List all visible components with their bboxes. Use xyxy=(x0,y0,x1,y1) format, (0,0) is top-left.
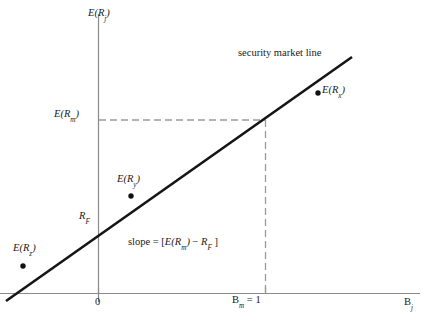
point-z-close: ) xyxy=(32,242,36,253)
data-point-y xyxy=(128,193,133,198)
x-axis-label-main: B xyxy=(404,296,411,307)
slope-term2-sub: F xyxy=(207,244,211,252)
x-tick-label-market-beta: Bm = 1 xyxy=(232,295,261,306)
market-beta-main: B xyxy=(232,294,239,305)
slope-operator: − xyxy=(190,236,201,247)
market-beta-sub: m xyxy=(239,302,244,310)
point-z-main: E(R xyxy=(13,242,29,253)
figure-canvas xyxy=(0,0,425,323)
data-point-z xyxy=(20,263,25,268)
data-point-x xyxy=(315,90,320,95)
security-market-line-label: security market line xyxy=(238,48,321,59)
x-axis-label-sub: j xyxy=(411,304,413,312)
y-axis-label-main: E(R xyxy=(88,7,104,18)
x-axis-origin-label: 0 xyxy=(95,297,100,308)
data-point-label-x: E(Rx) xyxy=(322,85,345,96)
point-y-sub: y xyxy=(133,181,136,189)
market-return-sub: m xyxy=(70,116,75,124)
y-axis-label-close: ) xyxy=(106,7,110,18)
point-y-close: ) xyxy=(137,173,141,184)
point-z-sub: z xyxy=(29,250,32,258)
slope-term1-main: E(R xyxy=(165,236,181,247)
y-tick-label-risk-free-rate: RF xyxy=(79,211,90,222)
data-point-label-z: E(Rz) xyxy=(13,243,36,254)
market-beta-suffix: = 1 xyxy=(244,294,260,305)
point-x-close: ) xyxy=(342,84,346,95)
slope-prefix: slope = [ xyxy=(128,236,165,247)
slope-term1-sub: m xyxy=(181,244,186,252)
point-x-main: E(R xyxy=(322,84,338,95)
point-x-sub: x xyxy=(338,92,341,100)
risk-free-sub: F xyxy=(85,218,89,226)
data-point-label-y: E(Ry) xyxy=(117,174,140,185)
market-return-close: ) xyxy=(76,108,80,119)
security-market-line-figure: E(Rj) E(Rm) RF security market line E(Rx… xyxy=(0,0,425,323)
security-market-line xyxy=(6,57,352,301)
point-y-main: E(R xyxy=(117,173,133,184)
x-axis-label: Bj xyxy=(404,297,413,308)
y-tick-label-market-return: E(Rm) xyxy=(54,109,79,120)
market-return-main: E(R xyxy=(54,108,70,119)
slope-annotation: slope = [E(Rm) − RF ] xyxy=(128,237,218,248)
slope-suffix: ] xyxy=(212,236,218,247)
y-axis-label: E(Rj) xyxy=(88,8,110,19)
